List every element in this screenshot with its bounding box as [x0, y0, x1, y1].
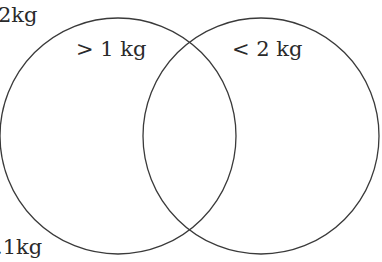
set-label-less-than-2kg: < 2 kg	[232, 37, 302, 61]
venn-diagram: 2kg .1kg > 1 kg < 2 kg	[0, 0, 382, 262]
outside-label-top-left: 2kg	[0, 3, 38, 27]
outside-label-bottom-left: .1kg	[0, 235, 42, 259]
set-label-greater-than-1kg: > 1 kg	[76, 37, 146, 61]
